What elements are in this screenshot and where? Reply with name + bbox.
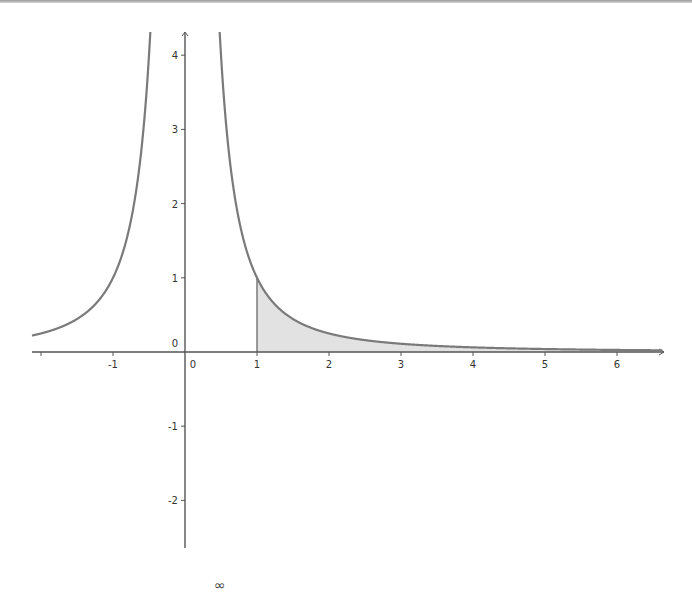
- x-tick-label: 2: [326, 359, 332, 370]
- x-axis-ticks: -10123456: [41, 352, 620, 370]
- y-tick-label: 0: [172, 338, 178, 349]
- y-axis-ticks: -2-101234: [168, 50, 185, 506]
- x-tick-label: 1: [254, 359, 260, 370]
- shaded-area: [257, 278, 662, 352]
- x-tick-label: 5: [542, 359, 548, 370]
- x-tick-label: 0: [190, 359, 196, 370]
- y-tick-label: 4: [172, 50, 178, 61]
- y-tick-label: -1: [168, 421, 178, 432]
- x-tick-label: 3: [398, 359, 404, 370]
- y-tick-label: 2: [172, 199, 178, 210]
- x-tick-label: 6: [614, 359, 620, 370]
- x-tick-label: 4: [470, 359, 476, 370]
- x-tick-label: -1: [108, 359, 118, 370]
- curve: [32, 0, 662, 350]
- integral-caption-partial: ∞: [214, 578, 226, 592]
- y-tick-label: -2: [168, 495, 178, 506]
- y-tick-label: 3: [172, 124, 178, 135]
- axes: [32, 32, 664, 548]
- y-tick-label: 1: [172, 273, 178, 284]
